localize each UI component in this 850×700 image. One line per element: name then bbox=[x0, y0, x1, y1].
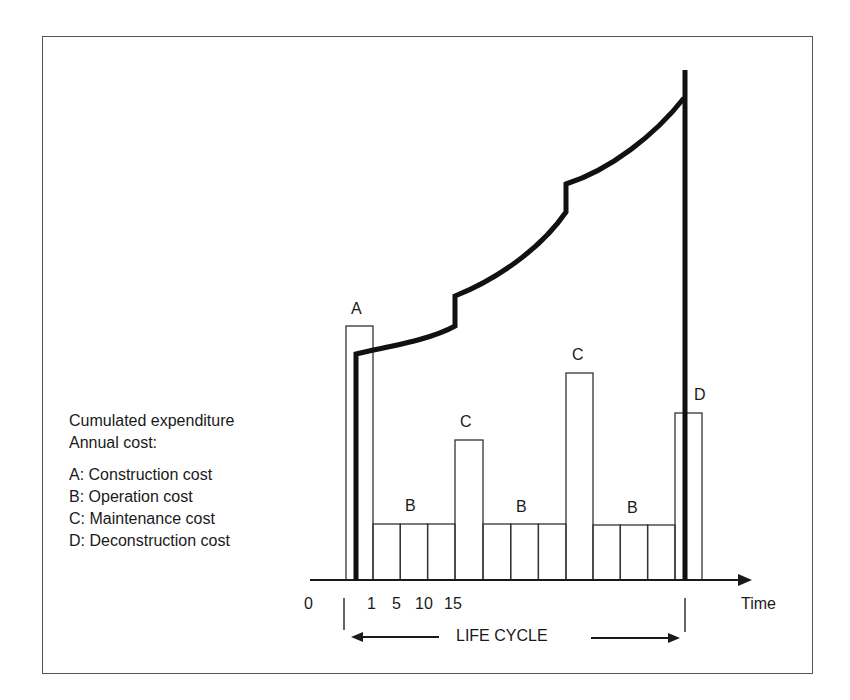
legend-cumulated: Cumulated expenditure bbox=[69, 410, 234, 432]
label-b3: B bbox=[627, 499, 638, 517]
arrow-right-icon bbox=[668, 633, 680, 643]
lifecycle-label: LIFE CYCLE bbox=[456, 627, 548, 645]
label-c1: C bbox=[460, 413, 472, 431]
bar-d bbox=[675, 413, 702, 580]
tick-5: 5 bbox=[392, 595, 401, 613]
bar-b2-1 bbox=[483, 524, 511, 580]
tick-1: 1 bbox=[367, 595, 376, 613]
bar-c1 bbox=[455, 440, 483, 580]
tick-0: 0 bbox=[304, 595, 313, 613]
label-d: D bbox=[694, 386, 706, 404]
bar-b2-2 bbox=[511, 524, 539, 580]
label-c2: C bbox=[572, 346, 584, 364]
bar-b3-3 bbox=[648, 525, 675, 580]
arrow-left-icon bbox=[351, 632, 363, 642]
legend-item-c: C: Maintenance cost bbox=[69, 508, 234, 530]
bar-b3-1 bbox=[593, 525, 620, 580]
tick-10: 10 bbox=[415, 595, 433, 613]
label-b2: B bbox=[516, 498, 527, 516]
legend-item-b: B: Operation cost bbox=[69, 486, 234, 508]
annual-cost-bars bbox=[346, 326, 702, 580]
bar-b2-3 bbox=[538, 524, 566, 580]
bar-b1-3 bbox=[428, 524, 455, 580]
label-b1: B bbox=[405, 497, 416, 515]
legend-item-d: D: Deconstruction cost bbox=[69, 530, 234, 552]
bar-c2 bbox=[566, 373, 593, 580]
axis-label-time: Time bbox=[741, 595, 776, 613]
legend-annual-heading: Annual cost: bbox=[69, 432, 234, 454]
legend: Cumulated expenditure Annual cost: A: Co… bbox=[69, 410, 234, 552]
legend-item-a: A: Construction cost bbox=[69, 464, 234, 486]
axis-arrowhead-icon bbox=[738, 574, 752, 586]
bar-b1-2 bbox=[400, 524, 427, 580]
tick-15: 15 bbox=[444, 595, 462, 613]
bar-a bbox=[346, 326, 373, 580]
label-a: A bbox=[351, 300, 362, 318]
bar-b3-2 bbox=[620, 525, 647, 580]
bar-b1-1 bbox=[373, 524, 400, 580]
